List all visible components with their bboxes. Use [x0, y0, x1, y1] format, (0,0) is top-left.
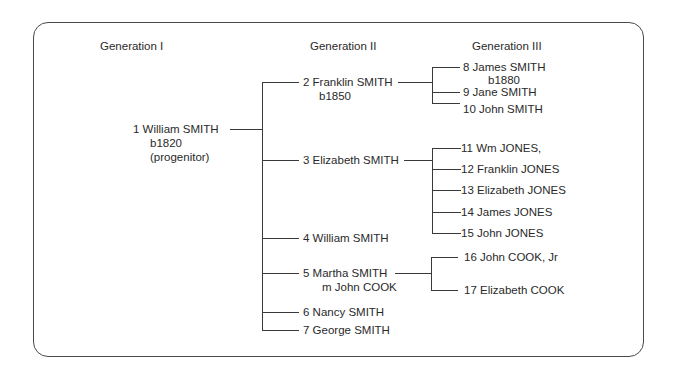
person-5-spouse: m John COOK: [322, 281, 397, 294]
connector: [432, 103, 460, 104]
connector: [262, 160, 299, 161]
connector: [262, 312, 299, 313]
connector: [431, 257, 432, 290]
connector: [262, 82, 263, 330]
person-13-name: 13 Elizabeth JONES: [461, 184, 566, 197]
person-11-name: 11 Wm JONES,: [461, 142, 541, 155]
connector: [431, 257, 458, 258]
connector: [262, 273, 299, 274]
connector: [398, 82, 432, 83]
connector: [432, 92, 460, 93]
connector: [432, 190, 461, 191]
person-8-name: 8 James SMITH: [463, 61, 545, 74]
person-17-name: 17 Elizabeth COOK: [464, 284, 564, 297]
person-1-birth: b1820: [150, 137, 182, 150]
person-4-name: 4 William SMITH: [303, 232, 389, 245]
person-2-name: 2 Franklin SMITH: [303, 76, 392, 89]
person-3-name: 3 Elizabeth SMITH: [303, 154, 399, 167]
header-generation-2: Generation II: [310, 40, 376, 52]
person-7-name: 7 George SMITH: [303, 324, 390, 337]
header-generation-1: Generation I: [100, 40, 163, 52]
person-6-name: 6 Nancy SMITH: [303, 306, 384, 319]
person-1-name: 1 William SMITH: [133, 123, 219, 136]
connector: [432, 148, 461, 149]
connector: [432, 148, 433, 234]
connector: [395, 273, 431, 274]
connector: [262, 82, 299, 83]
person-9-name: 9 Jane SMITH: [463, 86, 537, 99]
person-10-name: 10 John SMITH: [463, 103, 543, 116]
connector: [432, 169, 461, 170]
person-12-name: 12 Franklin JONES: [461, 163, 559, 176]
connector: [432, 67, 460, 68]
person-14-name: 14 James JONES: [461, 206, 552, 219]
person-2-birth: b1850: [319, 90, 351, 103]
connector: [432, 212, 461, 213]
header-generation-3: Generation III: [472, 40, 542, 52]
connector: [432, 233, 461, 234]
person-15-name: 15 John JONES: [461, 227, 543, 240]
connector: [432, 67, 433, 103]
person-5-name: 5 Martha SMITH: [303, 267, 387, 280]
connector: [230, 129, 262, 130]
person-16-name: 16 John COOK, Jr: [464, 251, 558, 264]
connector: [262, 330, 299, 331]
person-1-note: (progenitor): [150, 151, 209, 164]
connector: [404, 160, 432, 161]
connector: [431, 290, 458, 291]
connector: [262, 238, 299, 239]
